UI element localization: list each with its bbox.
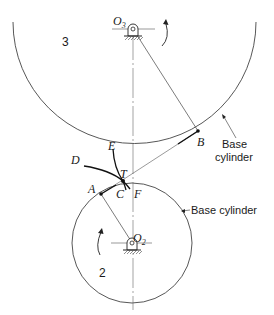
point-t-label: T <box>120 167 128 181</box>
point-d-label: D <box>70 153 80 167</box>
a-thick-segment <box>101 185 116 194</box>
point-a-label: A <box>87 182 96 196</box>
gear-3-base-circle <box>13 22 256 144</box>
radius-o3-b <box>135 32 198 131</box>
gear-3-number-label: 3 <box>62 35 69 49</box>
rotation-arrow-gear-3-icon <box>162 19 169 46</box>
o2-pivot-icon <box>111 238 152 254</box>
o2-label: O2 <box>133 231 146 247</box>
b-thick-segment <box>178 131 198 144</box>
point-f-label: F <box>133 187 142 201</box>
radius-o2-a <box>101 194 131 241</box>
gear-3-base-cylinder-label-line1: Base <box>222 138 247 150</box>
point-b <box>196 129 200 133</box>
point-b-label: B <box>197 135 205 149</box>
rotation-arrow-gear-2-icon <box>98 228 104 255</box>
point-e-label: E <box>107 139 116 153</box>
gear-2-number-label: 2 <box>99 266 106 280</box>
leader-arrow-gear-3 <box>222 114 236 138</box>
o3-label: O3 <box>113 14 126 30</box>
gear-2-base-cylinder-label: Base cylinder <box>191 204 257 216</box>
point-a <box>99 192 103 196</box>
gear-involute-diagram: 3 O3 B Base cylinder E D T A C F Base cy… <box>0 0 274 315</box>
gear-3-base-cylinder-label-line2: cylinder <box>215 151 253 163</box>
point-c-label: C <box>116 187 125 201</box>
